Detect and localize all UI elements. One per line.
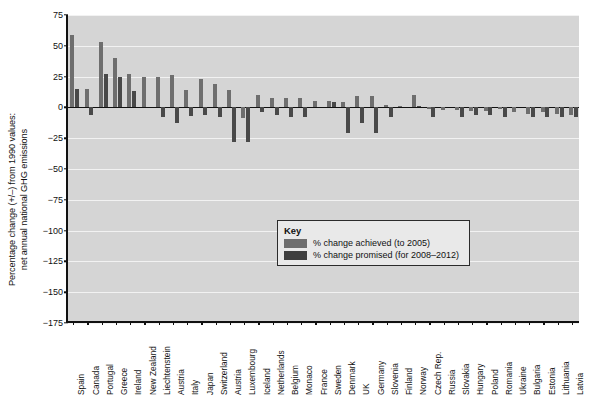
bar-promised [275,107,279,114]
bar-promised [246,107,250,141]
x-axis-tick-mark [429,321,430,325]
x-axis-tick-mark [344,321,345,325]
bar-group [125,15,139,321]
bar-group [481,15,495,321]
x-axis-label: Monaco [304,365,314,395]
legend-swatch-achieved [284,239,307,248]
x-axis-label: Norway [418,367,428,395]
legend-title: Key [284,225,463,236]
x-axis-tick-mark [159,321,160,325]
bar-group [353,15,367,321]
bar-achieved [526,107,530,113]
bar-achieved [70,35,74,108]
x-axis-label: Belgium [290,365,300,395]
bar-group [382,15,396,321]
x-axis-label: Slovakia [461,364,471,395]
bar-achieved [184,90,188,107]
x-axis-tick-mark [116,321,117,325]
x-axis-tick-mark [201,321,202,325]
legend: Key % change achieved (to 2005) % change… [277,220,470,266]
x-axis-tick-mark [558,321,559,325]
bar-promised [289,107,293,117]
bar-promised [545,107,549,117]
bar-group [282,15,296,321]
x-axis-tick-mark [130,321,131,325]
x-axis-label: Estonia [547,367,557,395]
x-axis-tick-mark [102,321,103,325]
bar-promised [374,107,378,133]
x-axis-tick-mark [572,321,573,325]
x-axis-label: Liechtenstein [162,346,172,395]
legend-label-achieved: % change achieved (to 2005) [313,238,430,248]
bar-group [524,15,538,321]
x-axis-tick-mark [401,321,402,325]
y-axis-tick-label: −150 [22,287,68,297]
bar-promised [118,77,122,108]
x-axis-tick-mark [258,321,259,325]
x-axis-tick-mark [87,321,88,325]
bar-achieved [541,107,545,112]
x-axis-tick-mark [330,321,331,325]
x-axis-label: Germany [376,361,386,395]
bar-achieved [441,107,445,109]
bar-group [367,15,381,321]
x-axis-label: Slovenia [390,363,400,395]
x-axis-tick-mark [486,321,487,325]
bar-promised [560,107,564,117]
x-axis-tick-mark [144,321,145,325]
bar-promised [503,107,507,117]
bar-group [182,15,196,321]
x-axis-tick-mark [515,321,516,325]
bar-achieved [85,89,89,107]
bar-group [68,15,82,321]
bar-promised [474,107,478,114]
y-axis-tick-label: −75 [22,195,68,205]
bar-achieved [427,107,431,108]
bar-group [211,15,225,321]
x-axis-label: Italy [190,380,200,395]
bar-promised [232,107,236,141]
bar-achieved [142,77,146,108]
bar-promised [203,107,207,114]
x-axis-label: Iceland [262,368,272,395]
bar-achieved [284,98,288,108]
x-axis-label: Poland [490,369,500,395]
y-axis-tick-label: 25 [22,72,68,82]
x-axis-label: Switzerland [219,352,229,395]
bar-promised [360,107,364,123]
bar-achieved [99,42,103,107]
bar-series-container [68,15,579,321]
x-axis-tick-mark [458,321,459,325]
x-axis-label: Czech Rep. [433,352,443,395]
x-axis-label: Austria [176,369,186,395]
y-axis-tick-label: −125 [22,256,68,266]
x-axis-tick-mark [315,321,316,325]
x-axis-label: Russia [447,370,457,395]
bar-group [553,15,567,321]
plot-area: 7550250−25−50−75−100−125−150−175 Key % c… [66,15,579,323]
legend-entry-achieved: % change achieved (to 2005) [284,238,463,248]
x-axis-label: Austria [233,369,243,395]
bar-group [196,15,210,321]
bar-promised [132,91,136,107]
x-axis-label: Netherlands [276,350,286,395]
bar-achieved [199,79,203,107]
bar-achieved [113,58,117,107]
bar-group [538,15,552,321]
bar-achieved [469,107,473,111]
bar-promised [332,102,336,107]
bar-group [111,15,125,321]
x-axis-label: Bulgaria [532,365,542,395]
bar-promised [189,107,193,116]
bar-group [97,15,111,321]
bar-group [453,15,467,321]
bar-promised [260,107,264,112]
bar-promised [104,74,108,107]
bar-group [268,15,282,321]
x-axis-tick-mark [73,321,74,325]
bar-promised [218,107,222,117]
bar-achieved [355,96,359,107]
bar-achieved [370,96,374,107]
bar-group [510,15,524,321]
bar-achieved [512,107,516,112]
